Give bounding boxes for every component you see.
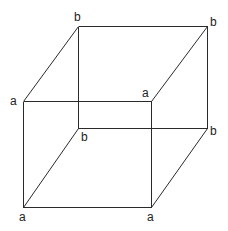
cube-edge xyxy=(152,129,208,208)
vertex-label-back-top-right: b xyxy=(210,15,217,29)
vertex-label-front-top-left: a xyxy=(10,94,17,108)
cube-diagram: b b a a b b a a xyxy=(0,0,228,231)
vertex-label-back-bottom-left: b xyxy=(81,130,88,144)
cube-edge xyxy=(24,129,79,208)
vertex-label-front-top-right: a xyxy=(142,86,149,100)
vertex-label-front-bottom-right: a xyxy=(147,210,154,224)
vertex-label-front-bottom-left: a xyxy=(19,210,26,224)
cube-edge xyxy=(24,27,79,102)
vertex-label-back-top-left: b xyxy=(74,10,81,24)
vertex-label-back-bottom-right: b xyxy=(210,124,217,138)
cube-edges xyxy=(24,27,208,208)
cube-edge xyxy=(152,27,208,102)
vertex-labels: b b a a b b a a xyxy=(10,10,217,224)
